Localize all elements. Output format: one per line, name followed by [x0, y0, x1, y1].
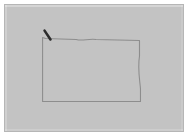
- hand-drawn-rectangle[interactable]: [43, 37, 141, 101]
- canvas-frame[interactable]: [4, 4, 184, 132]
- stroke-layer: [43, 31, 141, 102]
- app-root: [0, 0, 188, 136]
- drawing-svg[interactable]: [5, 5, 183, 131]
- drawing-surface[interactable]: [5, 5, 183, 131]
